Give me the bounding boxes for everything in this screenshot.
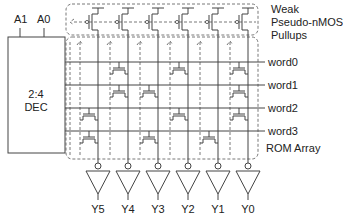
word0-label: word0	[267, 56, 298, 68]
rom-transistor-word0-Y2	[170, 62, 188, 74]
inverter-y3: Y3	[146, 163, 170, 215]
word1-label: word1	[267, 79, 298, 91]
output-label-y3: Y3	[151, 203, 164, 215]
pullup-transistors	[85, 8, 254, 30]
pullup-ground-arrow-icon	[70, 19, 74, 25]
rom-transistor-word2-Y2	[170, 108, 188, 120]
inverter-y2: Y2	[176, 163, 200, 215]
rom-transistor-word3-Y5	[80, 131, 98, 143]
decoder: A1 A0 2:4 DEC	[8, 13, 65, 153]
rom-array-label: ROM Array	[266, 142, 321, 154]
inverter-y4: Y4	[116, 163, 140, 215]
pullup-transistor-y4	[115, 8, 134, 30]
word2-label: word2	[267, 102, 298, 114]
rom-transistor-word2-Y5	[80, 108, 98, 120]
input-a0-label: A0	[37, 13, 50, 25]
output-inverters: Y5Y4Y3Y2Y1Y0	[86, 163, 260, 215]
inverter-y0: Y0	[236, 163, 260, 215]
word-lines	[65, 62, 265, 131]
rom-transistor-word1-Y0	[230, 85, 248, 97]
inverter-y1: Y1	[206, 163, 230, 215]
output-label-y2: Y2	[181, 203, 194, 215]
rom-transistor-word1-Y3	[140, 85, 158, 97]
pullup-transistor-y2	[175, 8, 194, 30]
word3-label: word3	[267, 125, 298, 137]
rom-transistor-word1-Y4	[110, 85, 128, 97]
pullup-label-line2: Pseudo-nMOS	[271, 16, 343, 28]
circuit-svg: A1 A0 2:4 DEC	[0, 0, 343, 219]
output-label-y1: Y1	[211, 203, 224, 215]
rom-transistor-word2-Y0	[230, 108, 248, 120]
pullup-transistor-y3	[145, 8, 164, 30]
inverter-y5: Y5	[86, 163, 110, 215]
pullup-transistor-y1	[205, 8, 224, 30]
pullup-transistor-y0	[235, 8, 254, 30]
rom-transistor-word0-Y4	[110, 62, 128, 74]
bit-lines	[98, 30, 248, 163]
rom-transistor-word3-Y3	[140, 131, 158, 143]
output-label-y4: Y4	[121, 203, 134, 215]
output-label-y5: Y5	[91, 203, 104, 215]
decoder-label-dec: DEC	[24, 101, 47, 113]
output-label-y0: Y0	[241, 203, 254, 215]
decoder-label-ratio: 2:4	[28, 88, 43, 100]
rom-diagram: A1 A0 2:4 DEC	[0, 0, 343, 219]
pullup-label-line1: Weak	[271, 3, 299, 15]
input-a1-label: A1	[14, 13, 27, 25]
pullup-transistor-y5	[85, 8, 104, 30]
rom-transistor-word3-Y1	[200, 131, 218, 143]
rom-transistor-word0-Y0	[230, 62, 248, 74]
pullup-label-line3: Pullups	[271, 29, 308, 41]
